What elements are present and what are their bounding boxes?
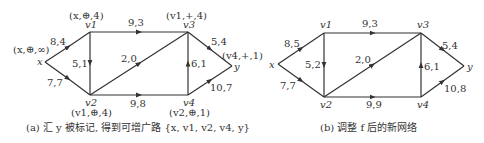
edge-v2-v3 — [90, 32, 188, 95]
edge-label-x-v2: 7,7 — [47, 77, 63, 88]
node-y: y — [466, 61, 473, 72]
edge-label-v1-v3: 9,3 — [128, 17, 144, 28]
edge-label-v1-v3: 9,3 — [362, 18, 378, 29]
mark-v3: (v1,+,4) — [166, 10, 207, 21]
edge-label-v2-v3: 2,0 — [121, 53, 137, 64]
node-x: x — [269, 59, 275, 70]
node-v1: v1 — [320, 19, 332, 30]
edge-label-v4-v3: 6,1 — [191, 58, 207, 69]
node-x: x — [37, 56, 43, 67]
edge-label-v2-v3: 2,0 — [355, 54, 371, 65]
edge-label-v3-y: 5,4 — [211, 36, 227, 47]
edge-label-v2-v4: 9,8 — [130, 98, 146, 109]
node-v3: v3 — [417, 19, 429, 30]
mark-y: (v4,+,1) — [222, 50, 263, 61]
node-v4: v4 — [417, 99, 429, 110]
diagram-b: 8,5 7,7 5,2 9,3 2,0 9,9 6,1 5,4 10,8 x v… — [269, 18, 473, 133]
node-y: y — [233, 61, 240, 72]
edge-v2-v3 — [324, 33, 421, 97]
edge-label-v2-v4: 9,9 — [366, 99, 382, 110]
mark-v2: (v1,⊕,4) — [71, 107, 112, 118]
edge-label-v1-v2: 5,2 — [305, 59, 321, 70]
diagram-a: 8,4 7,7 5,1 9,3 2,0 9,8 6,1 5,4 10,7 x v… — [13, 10, 263, 133]
edge-label-x-v1: 8,4 — [50, 36, 66, 47]
edge-label-v1-v2: 5,1 — [72, 58, 88, 69]
edge-label-v4-y: 10,7 — [210, 82, 232, 93]
edge-label-v3-y: 5,4 — [442, 40, 458, 51]
caption-b: (b) 调整 f 后的新网络 — [320, 121, 417, 133]
edge-label-v4-y: 10,8 — [444, 83, 466, 94]
edge-label-v4-v3: 6,1 — [424, 61, 440, 72]
caption-a: (a) 汇 y 被标记, 得到可增广路 {x, v1, v2, v4, y} — [26, 121, 250, 133]
edge-label-x-v2: 7,7 — [280, 80, 296, 91]
mark-x: (x,⊕,∞) — [13, 44, 50, 55]
mark-v1: (x,⊕,4) — [69, 10, 104, 21]
mark-v4: (v2,⊕,1) — [169, 107, 210, 118]
edge-label-x-v1: 8,5 — [284, 38, 300, 49]
node-v2: v2 — [320, 99, 332, 110]
network-flow-figure: 8,4 7,7 5,1 9,3 2,0 9,8 6,1 5,4 10,7 x v… — [0, 0, 484, 143]
